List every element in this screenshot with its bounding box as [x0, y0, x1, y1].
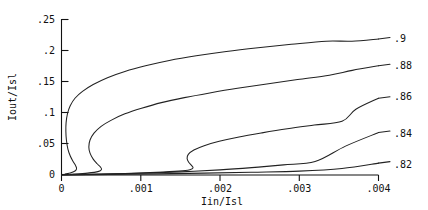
curve-leader-.84 — [379, 131, 391, 133]
y-tick-label-0.25: .25 — [37, 14, 55, 25]
y-tick-label-0.1: .1 — [43, 107, 55, 118]
x-axis-title: Iin/Isl — [201, 196, 243, 207]
chart-root: .25 .2 .15 .1 .05 0 0 .001 .002 .003 .00… — [0, 0, 428, 210]
y-tick-label-0.2: .2 — [43, 45, 55, 56]
curve-leader-.9 — [379, 37, 391, 39]
curve-.82 — [62, 163, 379, 175]
y-axis-title: Iout/Isl — [7, 73, 18, 121]
y-axis-ticks — [62, 20, 69, 175]
curve-.88 — [70, 66, 378, 174]
curve-label-0.82: .82 — [394, 159, 412, 170]
x-tick-label-0.001: .001 — [129, 183, 153, 194]
x-tick-label-0.003: .003 — [287, 183, 311, 194]
curve-leader-.88 — [379, 64, 391, 66]
curve-label-0.84: .84 — [394, 128, 412, 139]
curve-layer — [62, 37, 391, 175]
y-tick-label-0: 0 — [49, 169, 55, 180]
curve-.84 — [62, 133, 379, 175]
curve-.86 — [85, 98, 378, 174]
y-tick-label-0.05: .05 — [37, 138, 55, 149]
curve-leader-.82 — [379, 162, 391, 164]
curve-label-0.88: .88 — [394, 60, 412, 71]
x-axis-ticks — [62, 175, 379, 181]
x-tick-label-0.004: .004 — [366, 183, 390, 194]
x-tick-label-0: 0 — [58, 183, 64, 194]
curve-label-0.9: .9 — [394, 33, 406, 44]
bistability-characteristic-chart: .25 .2 .15 .1 .05 0 0 .001 .002 .003 .00… — [0, 0, 428, 210]
curve-label-0.86: .86 — [394, 91, 412, 102]
y-tick-label-0.15: .15 — [37, 76, 55, 87]
curve-leader-.86 — [379, 97, 391, 99]
x-tick-label-0.002: .002 — [208, 183, 232, 194]
